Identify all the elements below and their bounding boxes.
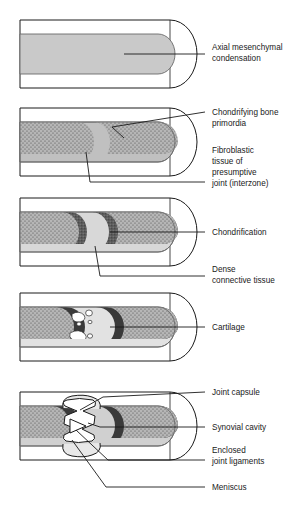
label-cartilage: Cartilage (212, 323, 245, 332)
panel-5-mature-synovial-joint (20, 392, 205, 487)
label-axial-mesenchymal-condensation-line2: condensation (212, 54, 261, 63)
label-enclosed-joint-ligaments-line1: Enclosed (212, 446, 246, 455)
label-joint-capsule: Joint capsule (212, 388, 260, 397)
label-meniscus: Meniscus (212, 483, 247, 492)
label-axial-mesenchymal-condensation-line1: Axial mesenchymal (212, 43, 283, 52)
label-chondrification: Chondrification (212, 228, 267, 237)
label-dense-connective-tissue-line2: connective tissue (212, 276, 275, 285)
label-fibroblastic-tissue-line4: joint (interzone) (211, 179, 269, 188)
panel-3-chondrification (20, 198, 205, 276)
label-chondrifying-bone-primordia-line2: primordia (212, 119, 247, 128)
panel-4-cavitation (20, 293, 205, 361)
label-synovial-cavity: Synovial cavity (212, 423, 267, 432)
panel-2-chondrifying-bone-primordia (20, 108, 205, 182)
label-fibroblastic-tissue-line2: tissue of (212, 157, 243, 166)
panel-1-axial-mesenchymal-condensation (20, 20, 205, 88)
label-dense-connective-tissue-line1: Dense (212, 265, 236, 274)
label-chondrifying-bone-primordia-line1: Chondrifying bone (212, 108, 279, 117)
label-fibroblastic-tissue-line1: Fibroblastic (212, 146, 254, 155)
synovial-cavity (63, 399, 95, 443)
label-enclosed-joint-ligaments-line2: joint ligaments (211, 457, 264, 466)
joint-development-diagram: Axial mesenchymal condensation Chondrify… (0, 0, 308, 512)
label-fibroblastic-tissue-line3: presumptive (212, 168, 257, 177)
